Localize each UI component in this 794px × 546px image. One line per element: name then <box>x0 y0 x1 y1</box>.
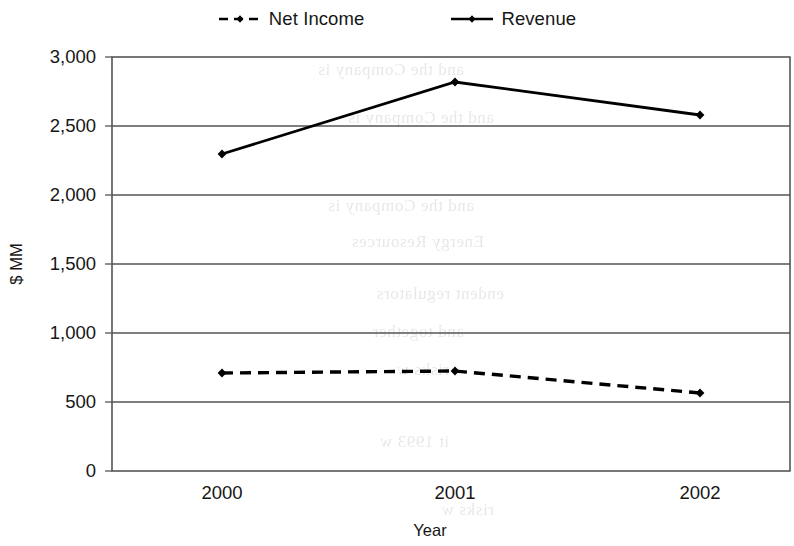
series-net-income <box>218 367 705 398</box>
x-axis-tick-labels: 2000 2001 2002 <box>201 482 720 503</box>
y-tick-label: 1,000 <box>50 322 96 343</box>
legend-item-revenue[interactable]: Revenue <box>450 8 576 30</box>
revenue-marker-2002 <box>696 111 705 120</box>
x-tick-label: 2000 <box>201 482 242 503</box>
net-income-marker-2000 <box>218 369 227 378</box>
plot-area: 3,000 2,500 2,000 1,500 1,000 500 0 $ MM… <box>0 0 794 546</box>
legend-key-dashed-icon <box>218 12 262 26</box>
y-tick-label: 2,000 <box>50 184 96 205</box>
y-axis-title: $ MM <box>7 243 25 284</box>
revenue-marker-2000 <box>218 150 227 159</box>
y-axis-tick-labels: 3,000 2,500 2,000 1,500 1,000 500 0 <box>50 46 96 481</box>
legend-item-net-income[interactable]: Net Income <box>218 8 365 30</box>
y-tick-label: 1,500 <box>50 253 96 274</box>
revenue-line <box>222 82 700 154</box>
net-income-marker-2002 <box>696 389 705 398</box>
net-income-marker-2001 <box>451 367 460 376</box>
line-chart: and the Company is and the Company is an… <box>0 0 794 546</box>
net-income-line <box>222 371 700 393</box>
x-tick-label: 2002 <box>679 482 720 503</box>
legend-key-solid-icon <box>450 12 494 26</box>
series-revenue <box>218 78 705 159</box>
y-tick-label: 0 <box>86 460 96 481</box>
y-tick-label: 500 <box>65 391 96 412</box>
legend-label-revenue: Revenue <box>501 8 576 30</box>
x-axis-title: Year <box>413 521 447 539</box>
gridlines <box>112 126 790 402</box>
x-tick-label: 2001 <box>434 482 475 503</box>
y-tick-label: 3,000 <box>50 46 96 67</box>
y-axis-ticks <box>105 57 112 471</box>
y-tick-label: 2,500 <box>50 115 96 136</box>
chart-legend: Net Income Revenue <box>0 8 794 30</box>
revenue-marker-2001 <box>451 78 460 87</box>
legend-label-net-income: Net Income <box>269 8 365 30</box>
